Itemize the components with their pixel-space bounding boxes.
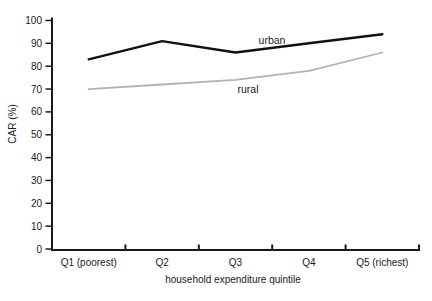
x-axis-title: household expenditure quintile (165, 274, 301, 285)
series-line-urban (89, 34, 383, 59)
y-tick-label: 90 (31, 38, 43, 49)
chart-figure: 0102030405060708090100 Q1 (poorest)Q2Q3Q… (0, 0, 432, 301)
series-label-urban: urban (259, 34, 286, 46)
y-tick-label: 60 (31, 106, 43, 117)
y-tick-label: 30 (31, 175, 43, 186)
y-tick-label: 20 (31, 198, 43, 209)
y-axis-title: CAR (%) (7, 104, 18, 143)
x-category-label: Q5 (richest) (356, 257, 408, 268)
series-line-rural (89, 53, 383, 90)
x-category-label: Q2 (155, 257, 169, 268)
series-lines (89, 34, 383, 89)
y-tick-label: 100 (25, 15, 42, 26)
x-category-label: Q1 (poorest) (61, 257, 117, 268)
y-tick-label: 70 (31, 84, 43, 95)
x-category-label: Q3 (229, 257, 243, 268)
car-by-quintile-line-chart: 0102030405060708090100 Q1 (poorest)Q2Q3Q… (0, 0, 432, 301)
y-tick-label: 50 (31, 129, 43, 140)
x-category-label: Q4 (302, 257, 316, 268)
y-tick-label: 0 (36, 244, 42, 255)
x-axis-ticks: Q1 (poorest)Q2Q3Q4Q5 (richest) (61, 245, 419, 269)
y-tick-label: 80 (31, 61, 43, 72)
y-tick-label: 10 (31, 221, 43, 232)
series-label-rural: rural (237, 83, 258, 95)
y-axis-ticks: 0102030405060708090100 (25, 15, 51, 255)
y-tick-label: 40 (31, 152, 43, 163)
